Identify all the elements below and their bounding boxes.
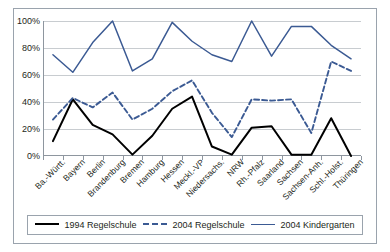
y-tick-label: 20% xyxy=(2,125,40,134)
legend-item-1994-regelschule: 1994 Regelschule xyxy=(35,220,136,230)
legend-swatch-dashed-blue-icon xyxy=(143,223,167,225)
legend-item-2004-regelschule: 2004 Regelschule xyxy=(143,220,244,230)
legend-swatch-solid-blue-icon xyxy=(251,224,275,225)
legend-item-2004-kindergarten: 2004 Kindergarten xyxy=(251,220,354,230)
y-tick-label: 0% xyxy=(2,152,40,161)
y-tick-label: 60% xyxy=(2,71,40,80)
legend-swatch-solid-black-icon xyxy=(35,223,59,225)
series-line-2 xyxy=(53,21,351,72)
x-axis-labels: Ba.-Württ.BayernBerlinBrandenburgBremenH… xyxy=(43,157,373,215)
y-tick-label: 80% xyxy=(2,44,40,53)
legend-label: 2004 Regelschule xyxy=(172,220,244,230)
legend-label: 2004 Kindergarten xyxy=(280,220,354,230)
y-axis-labels: 100% 80% 60% 40% 20% 0% xyxy=(0,21,40,156)
series-line-1 xyxy=(53,62,351,138)
chart-legend: 1994 Regelschule 2004 Regelschule 2004 K… xyxy=(27,215,363,235)
legend-label: 1994 Regelschule xyxy=(64,220,136,230)
chart-figure: 100% 80% 60% 40% 20% 0% Ba.-Württ.Bayern… xyxy=(0,0,390,252)
y-tick-label: 100% xyxy=(2,17,40,26)
y-tick-label: 40% xyxy=(2,98,40,107)
